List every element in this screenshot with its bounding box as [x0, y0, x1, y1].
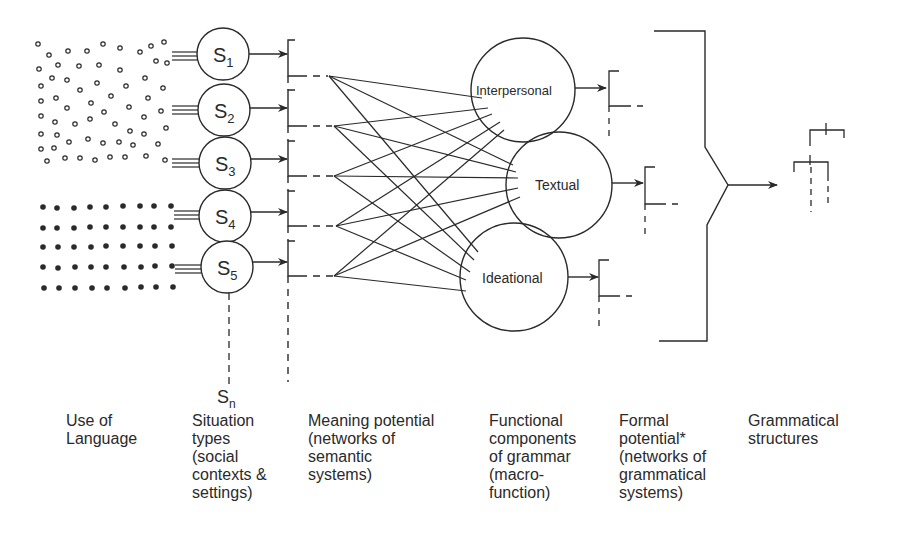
- textual-label: Textual: [535, 177, 579, 193]
- interpersonal-label: Interpersonal: [476, 83, 552, 98]
- formal-potential-networks: [599, 71, 680, 328]
- filled-dots-grid: [40, 203, 176, 291]
- label-use-of-language: Use of Language: [66, 412, 137, 448]
- situation-sn: Sn: [217, 387, 236, 411]
- label-functional-components: Functional components of grammar (macro-…: [489, 412, 576, 502]
- ideational-label: Ideational: [482, 270, 543, 286]
- label-formal-potential: Formal potential* (networks of grammatic…: [619, 412, 706, 502]
- label-grammatical-structures: Grammatical structures: [748, 412, 839, 448]
- grammatical-structure-tree: [794, 123, 844, 212]
- meaning-to-function-links: [329, 76, 520, 291]
- open-dots-cluster: [36, 40, 169, 163]
- convergence-bracket: [654, 31, 728, 341]
- meaning-potential-networks: [288, 40, 336, 382]
- label-meaning-potential: Meaning potential (networks of semantic …: [308, 412, 434, 484]
- label-situation-types: Situation types (social contexts & setti…: [192, 412, 267, 502]
- input-lines: [172, 52, 201, 273]
- systemic-grammar-diagram: S1 S2 S3 S4 S5 Sn: [0, 0, 898, 555]
- situation-arrows: [249, 54, 287, 262]
